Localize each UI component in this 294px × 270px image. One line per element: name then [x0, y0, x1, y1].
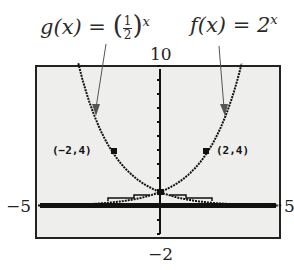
- point-left-label: (−2,4): [52, 144, 92, 157]
- point-right-label: (2,4): [216, 144, 249, 157]
- point-right: [203, 148, 209, 154]
- calculator-screen: [0, 0, 294, 270]
- point-left: [111, 148, 117, 154]
